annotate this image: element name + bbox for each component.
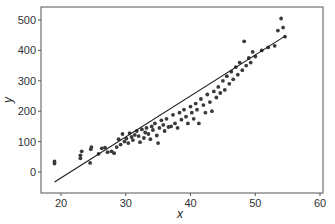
data-point (240, 68, 244, 72)
y-tick-label: 0 (30, 166, 36, 178)
data-point (180, 118, 184, 122)
data-point (178, 111, 182, 115)
data-point (153, 122, 157, 126)
data-point (208, 100, 212, 104)
data-point (189, 105, 193, 109)
data-point (156, 141, 160, 145)
data-point (218, 91, 222, 95)
data-point (210, 109, 214, 113)
regression-line (55, 36, 286, 182)
data-point (137, 134, 141, 138)
data-point (145, 126, 149, 130)
data-point (79, 153, 83, 157)
x-tick-label: 40 (184, 197, 196, 209)
data-point (276, 29, 280, 33)
data-point (281, 26, 285, 30)
data-point (155, 134, 159, 138)
x-tick-label: 20 (55, 197, 67, 209)
data-point (216, 85, 220, 89)
data-point (147, 132, 151, 136)
data-point (121, 132, 125, 136)
data-point (90, 145, 94, 149)
y-axis: 0100200300400500 (18, 14, 41, 178)
data-point (126, 141, 130, 145)
x-tick-label: 60 (314, 197, 326, 209)
data-point (273, 44, 277, 48)
data-point (205, 93, 209, 97)
data-point (176, 126, 180, 130)
data-point (163, 129, 167, 133)
x-tick-label: 50 (249, 197, 261, 209)
y-tick-label: 200 (18, 105, 36, 117)
data-point (236, 73, 240, 77)
x-tick-label: 30 (120, 197, 132, 209)
data-point (112, 151, 116, 155)
data-point (131, 138, 135, 142)
y-tick-label: 300 (18, 75, 36, 87)
data-point (158, 126, 162, 130)
data-point (186, 122, 190, 126)
data-point (202, 103, 206, 107)
y-axis-title: y (1, 96, 15, 104)
data-point (231, 77, 235, 81)
data-point (184, 115, 188, 119)
data-point (115, 145, 119, 149)
data-point (249, 61, 253, 65)
data-point (190, 111, 194, 115)
data-point (150, 125, 154, 129)
data-point (195, 108, 199, 112)
data-point (215, 96, 219, 100)
data-point (279, 17, 283, 21)
data-point (53, 160, 57, 164)
data-point (197, 122, 201, 126)
plot-frame (41, 7, 323, 193)
y-tick-label: 400 (18, 44, 36, 56)
data-point (161, 123, 165, 127)
data-point (80, 149, 84, 153)
data-point (119, 143, 123, 147)
data-point (251, 50, 255, 54)
data-point (242, 39, 246, 43)
data-point (182, 108, 186, 112)
x-axis: 2030405060 (55, 193, 326, 209)
data-point (204, 111, 208, 115)
data-point (173, 122, 177, 126)
scatter-chart: 0100200300400500 2030405060 y x (0, 0, 335, 224)
data-point (149, 137, 153, 141)
data-point (106, 150, 110, 154)
data-point (160, 118, 164, 122)
data-point (227, 82, 231, 86)
data-point (171, 113, 175, 117)
data-point (133, 133, 137, 137)
y-tick-label: 100 (18, 136, 36, 148)
data-point (88, 161, 92, 165)
data-point (192, 117, 196, 121)
data-point (194, 102, 198, 106)
data-points (53, 17, 287, 166)
data-point (165, 117, 169, 121)
data-point (151, 128, 155, 132)
data-point (142, 136, 146, 140)
y-tick-label: 500 (18, 14, 36, 26)
data-point (212, 90, 216, 94)
data-point (225, 74, 229, 78)
x-axis-title: x (176, 207, 184, 221)
data-point (223, 88, 227, 92)
data-point (199, 97, 203, 101)
data-point (169, 125, 173, 129)
data-point (244, 64, 248, 68)
data-point (221, 79, 225, 83)
data-point (100, 146, 104, 150)
data-point (138, 140, 142, 144)
